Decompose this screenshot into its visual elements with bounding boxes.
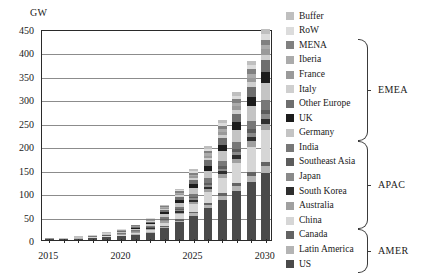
legend-label: Italy (299, 85, 316, 95)
bar-2022 (146, 218, 155, 240)
legend-swatch-icon (286, 260, 294, 268)
bar-segment (261, 60, 270, 72)
bar-segment (204, 192, 213, 203)
legend-label: US (299, 260, 311, 270)
legend-group-label-apac: APAC (378, 179, 405, 190)
legend-label: Iberia (299, 55, 321, 65)
bar-segment (261, 72, 270, 83)
y-tick-label: 350 (2, 71, 34, 82)
legend-item-other-europe[interactable]: Other Europe (286, 97, 386, 112)
x-tickmark (208, 239, 209, 243)
x-tickmark (251, 239, 252, 243)
bar-segment (247, 97, 256, 106)
bar-segment (247, 87, 256, 97)
legend-group-brace (358, 141, 368, 229)
legend-swatch-icon (286, 114, 294, 122)
bar-2023 (160, 205, 169, 240)
legend-swatch-icon (286, 71, 294, 79)
legend-label: Latin America (299, 245, 354, 255)
x-tickmark (266, 239, 267, 243)
bar-segment (247, 106, 256, 120)
legend-item-china[interactable]: China (286, 213, 386, 228)
legend-item-italy[interactable]: Italy (286, 82, 386, 97)
legend-item-row[interactable]: RoW (286, 24, 386, 39)
legend-item-germany[interactable]: Germany (286, 126, 386, 141)
bar-segment (261, 173, 270, 240)
legend-swatch-icon (286, 41, 294, 49)
bar-segment (232, 142, 241, 149)
legend-label: Germany (299, 128, 334, 138)
x-tick-label: 2030 (255, 250, 275, 261)
legend-swatch-icon (286, 187, 294, 195)
x-tick-label: 2025 (183, 250, 203, 261)
legend-swatch-icon (286, 56, 294, 64)
legend-label: China (299, 216, 322, 226)
legend-item-us[interactable]: US (286, 257, 386, 272)
legend-label: RoW (299, 26, 319, 36)
x-tickmark (136, 239, 137, 243)
legend-item-southeast-asia[interactable]: Southeast Asia (286, 155, 386, 170)
legend-swatch-icon (286, 100, 294, 108)
legend-label: South Korea (299, 187, 347, 197)
legend-item-mena[interactable]: MENA (286, 38, 386, 53)
legend-label: India (299, 143, 319, 153)
legend-swatch-icon (286, 217, 294, 225)
plot-area (41, 30, 272, 241)
legend-item-iberia[interactable]: Iberia (286, 53, 386, 68)
x-tickmark (222, 239, 223, 243)
legend-item-buffer[interactable]: Buffer (286, 9, 386, 24)
legend-item-canada[interactable]: Canada (286, 228, 386, 243)
bar-segment (189, 204, 198, 212)
bar-segment (218, 138, 227, 145)
legend-label: Other Europe (299, 99, 350, 109)
bar-segment (189, 216, 198, 240)
bar-segment (175, 222, 184, 240)
legend-label: Japan (299, 172, 321, 182)
y-tick-label: 450 (2, 25, 34, 36)
legend-label: Southeast Asia (299, 157, 355, 167)
y-tick-label: 50 (2, 212, 34, 223)
legend-item-india[interactable]: India (286, 140, 386, 155)
bar-segment (232, 122, 241, 130)
legend-item-australia[interactable]: Australia (286, 199, 386, 214)
x-tickmark (107, 239, 108, 243)
legend-swatch-icon (286, 246, 294, 254)
bar-2024 (175, 189, 184, 240)
legend-item-south-korea[interactable]: South Korea (286, 184, 386, 199)
legend-swatch-icon (286, 12, 294, 20)
legend-group-brace (358, 229, 368, 273)
bar-2026 (204, 146, 213, 240)
bar-segment (218, 200, 227, 240)
legend-label: UK (299, 114, 313, 124)
y-tick-label: 150 (2, 165, 34, 176)
bar-segment (261, 166, 270, 173)
x-tickmark (179, 239, 180, 243)
bar-segment (232, 163, 241, 183)
x-tick-label: 2020 (110, 250, 130, 261)
legend-item-japan[interactable]: Japan (286, 170, 386, 185)
legend-swatch-icon (286, 158, 294, 166)
bar-series-container (42, 31, 271, 240)
legend-item-uk[interactable]: UK (286, 111, 386, 126)
legend-swatch-icon (286, 27, 294, 35)
bar-segment (261, 100, 270, 110)
legend-swatch-icon (286, 231, 294, 239)
legend-swatch-icon (286, 173, 294, 181)
bar-segment (232, 114, 241, 123)
bar-segment (261, 83, 270, 99)
bar-2025 (189, 169, 198, 240)
bar-2030 (261, 29, 270, 240)
bar-segment (204, 171, 213, 179)
x-tickmark (237, 239, 238, 243)
bar-segment (247, 147, 256, 173)
y-tick-label: 250 (2, 118, 34, 129)
legend-swatch-icon (286, 129, 294, 137)
legend-item-france[interactable]: France (286, 67, 386, 82)
x-tickmark (49, 239, 50, 243)
chart-legend: BufferRoWMENAIberiaFranceItalyOther Euro… (286, 9, 386, 272)
legend-group-label-amer: AMER (378, 244, 409, 255)
legend-label: Canada (299, 230, 328, 240)
legend-label: Buffer (299, 12, 324, 22)
legend-item-latin-america[interactable]: Latin America (286, 243, 386, 258)
bar-2021 (131, 225, 140, 240)
